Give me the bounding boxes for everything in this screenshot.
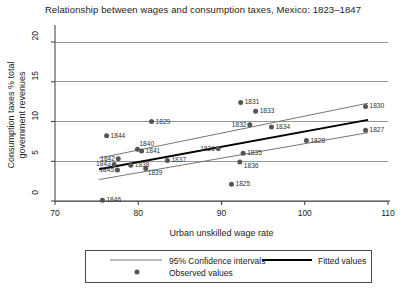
point-label-1835: 1835	[247, 149, 262, 156]
x-tick-80: 80	[126, 208, 150, 218]
point-label-1829: 1829	[156, 118, 171, 125]
point-label-1828: 1828	[310, 137, 325, 144]
y-tick-20: 20	[30, 31, 40, 51]
legend-label-observed: Observed values	[169, 268, 233, 278]
point-label-1826: 1826	[200, 145, 215, 152]
point-label-1833: 1833	[260, 107, 275, 114]
y-tick-5: 5	[30, 150, 40, 170]
x-tick-70: 70	[43, 208, 67, 218]
y-tick-15: 15	[30, 71, 40, 91]
point-label-1825: 1825	[235, 180, 250, 187]
x-tick-90: 90	[210, 208, 234, 218]
x-tick-110: 110	[376, 208, 400, 218]
y-tick-10: 10	[30, 111, 40, 131]
point-label-1846: 1846	[106, 196, 121, 203]
point-label-1831: 1831	[245, 98, 260, 105]
point-label-1834: 1834	[275, 123, 290, 130]
point-label-1844: 1844	[111, 132, 126, 139]
point-label-1838: 1838	[135, 161, 150, 168]
x-tick-100: 100	[293, 208, 317, 218]
point-label-1839: 1839	[148, 169, 163, 176]
chart-figure: Relationship between wages and consumpti…	[0, 0, 406, 292]
point-label-1830: 1830	[370, 102, 385, 109]
point-label-1836: 1836	[244, 162, 259, 169]
point-label-1845: 1845	[99, 166, 114, 173]
point-label-1832: 1832	[232, 121, 247, 128]
legend-label-ci: 95% Confidence intervals	[169, 256, 265, 266]
point-label-1841: 1841	[146, 147, 161, 154]
point-label-1837: 1837	[171, 156, 186, 163]
legend-label-fitted: Fitted values	[318, 256, 366, 266]
y-tick-0: 0	[30, 190, 40, 210]
point-label-1827: 1827	[370, 126, 385, 133]
legend-box	[85, 250, 372, 283]
